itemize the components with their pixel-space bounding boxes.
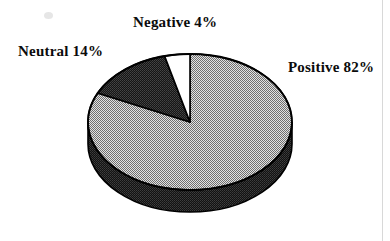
pie-label-positive: Positive 82% xyxy=(288,60,374,75)
pie-chart-plot xyxy=(0,0,390,241)
chart-canvas: Negative 4% Neutral 14% Positive 82% xyxy=(0,0,390,241)
pie-label-neutral: Neutral 14% xyxy=(18,44,103,59)
pie-label-negative: Negative 4% xyxy=(133,15,217,30)
